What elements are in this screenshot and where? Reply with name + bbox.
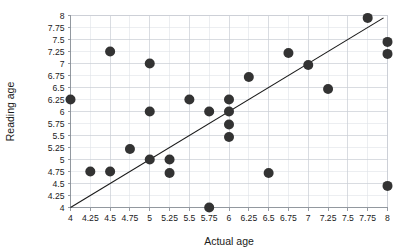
y-tick-label: 4.25	[48, 191, 65, 201]
x-tick-label: 5	[147, 213, 152, 223]
y-tick-label: 5.5	[53, 131, 65, 141]
y-tick-label: 6.75	[48, 71, 65, 81]
data-point	[85, 167, 95, 177]
x-tick-label: 5.5	[183, 213, 195, 223]
x-tick-label: 5.25	[161, 213, 178, 223]
data-point	[105, 167, 115, 177]
y-tick-label: 5.25	[48, 143, 65, 153]
data-point	[165, 168, 175, 178]
data-point	[66, 95, 76, 105]
x-tick-label: 7.25	[320, 213, 337, 223]
y-tick-label: 4.5	[53, 179, 65, 189]
data-point	[224, 107, 234, 117]
data-point	[105, 47, 115, 57]
data-point	[323, 84, 333, 94]
data-point	[204, 203, 214, 213]
data-point	[224, 95, 234, 105]
data-point	[363, 13, 373, 23]
x-tick-label: 7.5	[342, 213, 354, 223]
x-tick-label: 4.75	[122, 213, 139, 223]
x-axis-tick-labels: 44.254.54.7555.255.55.7566.256.56.7577.2…	[68, 213, 390, 223]
x-tick-label: 4.25	[82, 213, 99, 223]
x-tick-label: 4.5	[104, 213, 116, 223]
x-tick-label: 4	[68, 213, 73, 223]
x-tick-label: 6.5	[263, 213, 275, 223]
y-tick-label: 6.25	[48, 95, 65, 105]
y-tick-label: 7	[60, 59, 65, 69]
data-point	[283, 48, 293, 58]
data-point	[383, 181, 393, 191]
y-tick-label: 7.5	[53, 35, 65, 45]
y-tick-label: 4	[60, 203, 65, 213]
data-point	[145, 59, 155, 69]
x-tick-label: 8	[385, 213, 390, 223]
x-tick-label: 6.25	[240, 213, 257, 223]
data-point	[165, 155, 175, 165]
data-point	[264, 168, 274, 178]
y-tick-label: 7.25	[48, 47, 65, 57]
x-axis-title: Actual age	[204, 235, 254, 247]
data-point	[145, 107, 155, 117]
chart-canvas: 44.254.54.7555.255.55.7566.256.56.7577.2…	[0, 0, 403, 252]
data-point	[204, 107, 214, 117]
data-point	[184, 95, 194, 105]
data-point	[303, 60, 313, 70]
data-point	[125, 144, 135, 154]
data-point	[145, 155, 155, 165]
y-tick-label: 5.75	[48, 119, 65, 129]
y-tick-label: 4.75	[48, 167, 65, 177]
data-point	[224, 119, 234, 129]
data-point	[383, 37, 393, 47]
y-axis-tick-labels: 44.254.54.7555.255.55.7566.256.56.7577.2…	[48, 11, 65, 213]
y-tick-label: 7.75	[48, 23, 65, 33]
y-tick-label: 6	[60, 107, 65, 117]
y-tick-label: 8	[60, 11, 65, 21]
x-tick-label: 7.75	[359, 213, 376, 223]
data-point	[244, 72, 254, 82]
x-tick-label: 7	[306, 213, 311, 223]
x-tick-label: 6	[227, 213, 232, 223]
x-tick-label: 5.75	[201, 213, 218, 223]
x-tick-label: 6.75	[280, 213, 297, 223]
y-tick-label: 6.5	[53, 83, 65, 93]
y-tick-label: 5	[60, 155, 65, 165]
y-axis-title: Reading age	[4, 82, 16, 142]
data-point	[383, 49, 393, 59]
data-point	[224, 132, 234, 142]
scatter-chart: 44.254.54.7555.255.55.7566.256.56.7577.2…	[0, 0, 403, 252]
